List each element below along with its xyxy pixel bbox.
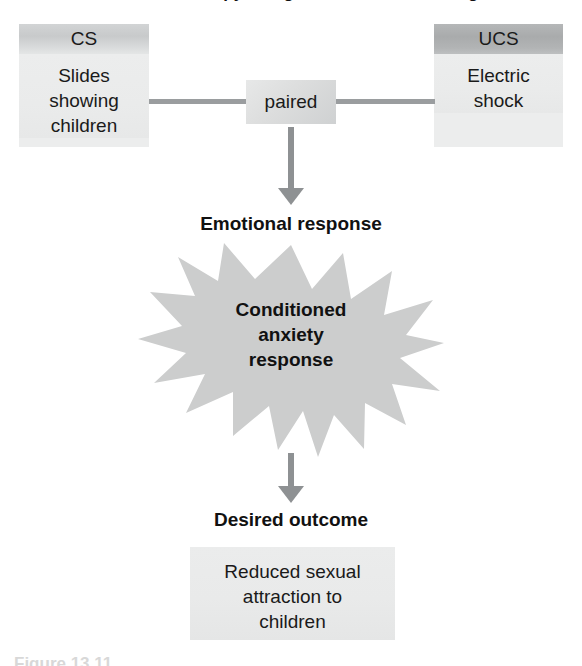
ucs-header-label: UCS [434,24,563,54]
outcome-line-3: children [190,609,395,634]
outcome-line-2: attraction to [190,584,395,609]
cs-line-3: children [19,113,149,138]
down-arrow-icon-to-desired-outcome [278,453,304,505]
figure-title: Aversion therapy using classical conditi… [0,0,582,3]
ucs-body-text: Electric shock [434,54,563,113]
ucs-stimulus-box: UCS Electric shock [434,24,563,147]
cs-stimulus-box: CS Slides showing children [19,24,149,147]
starburst-line-2: anxiety [138,322,444,347]
starburst-shape: Conditioned anxiety response [138,243,444,457]
ucs-line-2: shock [434,88,563,113]
starburst-line-3: response [138,347,444,372]
ucs-line-1: Electric [434,63,563,88]
starburst-line-1: Conditioned [138,297,444,322]
outcome-box: Reduced sexual attraction to children [190,547,395,640]
starburst-text: Conditioned anxiety response [138,297,444,372]
arrow-head [278,188,304,205]
arrow-shaft [288,453,294,489]
emotional-response-label: Emotional response [0,213,582,235]
cs-line-1: Slides [19,63,149,88]
connector-line-cs-to-paired [149,99,247,104]
figure-diagram: Aversion therapy using classical conditi… [0,0,582,666]
cs-header-label: CS [19,24,149,54]
cs-body-text: Slides showing children [19,54,149,138]
arrow-head [278,486,304,503]
arrow-shaft [288,127,294,191]
cs-line-2: showing [19,88,149,113]
connector-line-paired-to-ucs [335,99,435,104]
paired-box: paired [246,80,336,124]
outcome-line-1: Reduced sexual [190,559,395,584]
down-arrow-icon-to-emotional-response [278,127,304,207]
desired-outcome-label: Desired outcome [0,509,582,531]
figure-caption: Figure 13.11 [14,654,112,666]
